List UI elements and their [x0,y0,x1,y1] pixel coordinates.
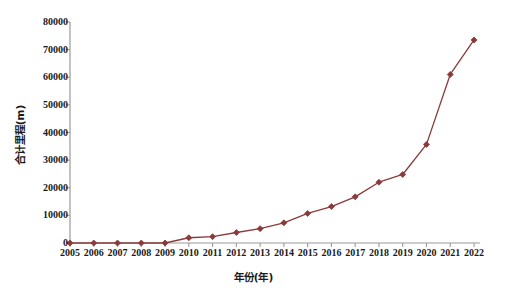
chart-figure: 合计里程(m) 01000020000300004000050000600007… [0,0,507,297]
x-axis-tick-labels: 2005200620072008200920102011201220132014… [0,0,507,297]
x-axis-title: 年份(年) [0,269,507,284]
x-tick-label: 2022 [454,247,494,258]
